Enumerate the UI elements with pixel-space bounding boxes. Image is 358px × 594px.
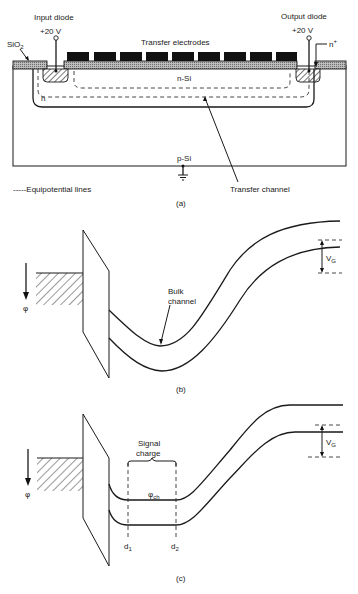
oxide-middle — [64, 61, 297, 69]
panel-b: φ VG Bulk channel (b) — [23, 221, 342, 394]
panel-a: Input diode +20 V SiO2 Transfer electrod… — [7, 12, 346, 208]
n-si-label: n-Si — [177, 74, 191, 83]
potential-curve-lower — [109, 247, 340, 371]
input-voltage-label: +20 V — [40, 27, 62, 36]
signal-charge-brace — [128, 458, 176, 466]
bulk-channel-label-2: channel — [168, 297, 196, 306]
transfer-channel-label: Transfer channel — [230, 185, 290, 194]
panel-c: φ Signal charge φch d1 d2 VG (c) — [25, 405, 343, 583]
ground-icon — [178, 175, 188, 180]
bulk-channel-label-1: Bulk — [168, 287, 185, 296]
ccd-diagram: Input diode +20 V SiO2 Transfer electrod… — [0, 0, 358, 594]
transfer-electrodes — [67, 52, 297, 61]
panel-b-caption: (b) — [176, 385, 186, 394]
input-terminal-icon — [54, 36, 58, 40]
n-plus-label: n+ — [329, 38, 337, 49]
equipotential-legend: -----Equipotential lines — [13, 185, 91, 194]
d1-label: d1 — [124, 542, 132, 552]
vg-label: VG — [326, 438, 336, 448]
panel-c-caption: (c) — [176, 574, 186, 583]
signal-charge-label-2: charge — [136, 449, 161, 458]
bulk-channel-pointer — [161, 305, 170, 342]
phi-ch-label: φch — [148, 490, 160, 500]
input-fermi-region — [37, 458, 83, 491]
transfer-electrodes-label: Transfer electrodes — [141, 38, 210, 47]
vg-label: VG — [326, 254, 336, 264]
transfer-channel-pointer — [205, 98, 238, 182]
oxide-label: SiO2 — [7, 40, 24, 50]
phi-arrow-icon — [25, 478, 31, 486]
input-fermi-region — [36, 273, 83, 305]
equipotential-line-outer — [38, 69, 309, 97]
phi-arrow-icon — [23, 292, 29, 300]
oxide-left — [13, 61, 47, 69]
barrier-parallelogram — [83, 414, 109, 566]
oxide-right — [315, 61, 346, 69]
phi-label: φ — [23, 304, 28, 313]
barrier-parallelogram — [83, 230, 109, 378]
input-diode-label: Input diode — [34, 13, 74, 22]
output-terminal-icon — [307, 36, 311, 40]
potential-curve-upper — [109, 221, 340, 346]
output-voltage-label: +20 V — [292, 26, 314, 35]
n-label: n — [41, 94, 45, 103]
phi-label: φ — [25, 490, 30, 499]
output-diode-label: Output diode — [281, 12, 327, 21]
p-si-label: p-Si — [177, 154, 191, 163]
d2-label: d2 — [171, 542, 179, 552]
panel-a-caption: (a) — [176, 199, 186, 208]
signal-charge-label-1: Signal — [138, 439, 160, 448]
